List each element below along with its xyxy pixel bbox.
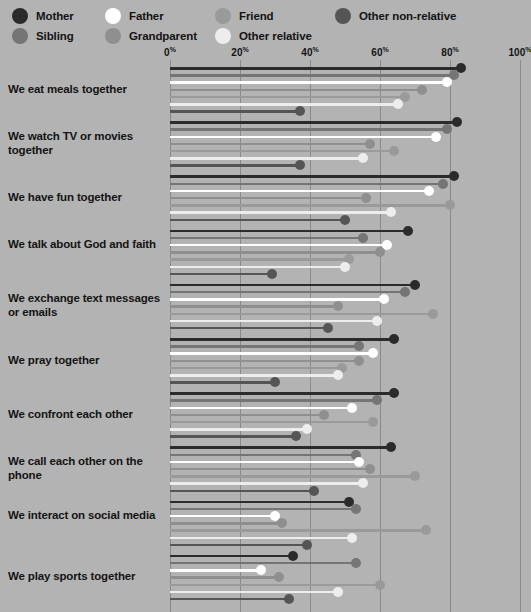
lollipop-stem (170, 522, 282, 525)
lollipop-friend (0, 95, 530, 99)
lollipop-stem (170, 562, 356, 565)
lollipop-other-relative (0, 102, 530, 106)
lollipop-dot (379, 294, 389, 304)
lollipop-stem (170, 305, 338, 308)
lollipop-stem (170, 150, 394, 153)
lollipop-dot (354, 457, 364, 467)
chart-row-group: We eat meals together (0, 64, 530, 118)
lollipop-friend (0, 366, 530, 370)
lollipop-sibling (0, 561, 530, 565)
x-axis-tick-label: 0% (164, 46, 176, 58)
lollipop-stem (170, 291, 405, 294)
lollipop-dot (302, 540, 312, 550)
lollipop-stem (170, 367, 342, 370)
lollipop-father (0, 297, 530, 301)
chart-row-group: We have fun together (0, 172, 530, 226)
legend-swatch-circle-icon (335, 8, 351, 24)
lollipop-friend (0, 474, 530, 478)
lollipop-grandparent (0, 575, 530, 579)
lollipop-grandparent (0, 521, 530, 525)
chart-row-group: We confront each other (0, 389, 530, 443)
lollipop-grandparent (0, 359, 530, 363)
lollipop-stem (170, 320, 377, 323)
lollipop-dot (340, 215, 350, 225)
lollipop-stem (170, 266, 345, 269)
x-axis-tick-label: 100% (509, 46, 531, 58)
lollipop-father (0, 243, 530, 247)
lollipop-dot (386, 207, 396, 217)
chart-row-group: We pray together (0, 335, 530, 389)
lollipop-other-relative (0, 427, 530, 431)
legend-item: Other relative (215, 28, 312, 44)
lollipop-sibling (0, 398, 530, 402)
lollipop-dot (410, 280, 420, 290)
lollipop-dot (274, 572, 284, 582)
lollipop-stem (170, 230, 408, 233)
lollipop-friend (0, 257, 530, 261)
lollipop-dot (410, 471, 420, 481)
lollipop-stem (170, 508, 356, 511)
lollipop-dot (375, 580, 385, 590)
lollipop-mother (0, 66, 530, 70)
lollipop-stem (170, 298, 384, 301)
lollipop-other-non-relative (0, 326, 530, 330)
lollipop-dot (421, 525, 431, 535)
lollipop-dot (375, 247, 385, 257)
lollipop-sibling (0, 290, 530, 294)
lollipop-stem (170, 468, 370, 471)
lollipop-stem (170, 576, 279, 579)
lollipop-other-non-relative (0, 109, 530, 113)
chart-rows: We eat meals togetherWe watch TV or movi… (0, 64, 530, 612)
lollipop-stem (170, 555, 293, 558)
lollipop-stem (170, 143, 370, 146)
lollipop-dot (372, 395, 382, 405)
lollipop-stem (170, 211, 391, 214)
lollipop-stem (170, 529, 426, 532)
lollipop-father (0, 514, 530, 518)
lollipop-mother (0, 554, 530, 558)
lollipop-stem (170, 273, 272, 276)
lollipop-stem (170, 164, 300, 167)
lollipop-mother (0, 337, 530, 341)
lollipop-dot (291, 431, 301, 441)
lollipop-stem (170, 399, 377, 402)
lollipop-sibling (0, 453, 530, 457)
lollipop-father (0, 406, 530, 410)
lollipop-other-relative (0, 210, 530, 214)
chart-row-group: We talk about God and faith (0, 227, 530, 281)
lollipop-stem (170, 454, 356, 457)
lollipop-dot (438, 179, 448, 189)
x-axis-tick-label: 20% (231, 46, 248, 58)
lollipop-dot (389, 388, 399, 398)
lollipop-father (0, 189, 530, 193)
lollipop-stem (170, 435, 296, 438)
lollipop-dot (358, 153, 368, 163)
lollipop-friend (0, 420, 530, 424)
lollipop-dot (277, 518, 287, 528)
lollipop-dot (449, 171, 459, 181)
lollipop-grandparent (0, 250, 530, 254)
lollipop-stem (170, 374, 338, 377)
lollipop-stem (170, 490, 314, 493)
lollipop-dot (442, 77, 452, 87)
lollipop-dot (386, 442, 396, 452)
lollipop-stem (170, 360, 359, 363)
lollipop-dot (288, 551, 298, 561)
lollipop-dot (365, 139, 375, 149)
lollipop-stem (170, 414, 324, 417)
lollipop-mother (0, 500, 530, 504)
lollipop-grandparent (0, 467, 530, 471)
lollipop-stem (170, 190, 429, 193)
legend-item-label: Other relative (239, 30, 312, 42)
lollipop-dot (368, 417, 378, 427)
lollipop-stem (170, 338, 394, 341)
lollipop-stem (170, 428, 307, 431)
lollipop-stem (170, 89, 422, 92)
lollipop-stem (170, 175, 454, 178)
lollipop-father (0, 351, 530, 355)
lollipop-stem (170, 515, 275, 518)
lollipop-stem (170, 501, 349, 504)
lollipop-sibling (0, 344, 530, 348)
lollipop-stem (170, 421, 373, 424)
lollipop-other-non-relative (0, 543, 530, 547)
